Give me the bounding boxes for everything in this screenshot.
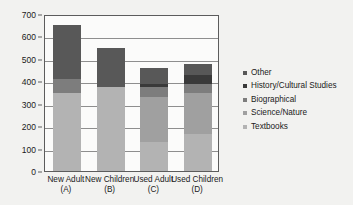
y-axis-tick-label: 300 [2, 100, 36, 109]
y-axis-tick-mark [38, 172, 42, 173]
y-axis-tick-label: 0 [2, 168, 36, 177]
bar-segment [97, 87, 125, 171]
legend-swatch-icon [243, 125, 247, 129]
legend-item[interactable]: Biographical [243, 93, 351, 107]
x-axis-labels: New Adult(A)New Children(B)Used Adult(C)… [44, 175, 219, 203]
y-axis-tick-mark [38, 104, 42, 105]
y-axis-tick-label: 500 [2, 56, 36, 65]
y-axis-tick-mark [38, 37, 42, 38]
legend-label: History/Cultural Studies [251, 82, 337, 90]
plot-area [44, 15, 219, 172]
x-axis-label-4: Used Children(D) [166, 175, 228, 196]
bar-segment [184, 64, 212, 74]
y-axis-tick-label: 700 [2, 11, 36, 20]
bar-segment [184, 75, 212, 84]
bar-segment [140, 68, 168, 84]
bar-segment [184, 134, 212, 171]
x-axis-label-line: Used Children [166, 175, 228, 185]
y-axis-tick-mark [38, 15, 42, 16]
y-axis: 0100200300400500600700 [0, 8, 42, 180]
legend-item[interactable]: History/Cultural Studies [243, 80, 351, 94]
legend-label: Science/Nature [251, 109, 307, 117]
legend-swatch-icon [243, 84, 247, 88]
bar-segment [53, 93, 81, 172]
bar-2 [97, 14, 125, 171]
bar-segment [97, 48, 125, 87]
bar-4 [184, 14, 212, 171]
legend-item[interactable]: Science/Nature [243, 107, 351, 121]
legend-label: Other [251, 69, 271, 77]
y-axis-tick-label: 600 [2, 33, 36, 42]
legend-swatch-icon [243, 111, 247, 115]
chart-legend: OtherHistory/Cultural StudiesBiographica… [243, 66, 351, 134]
legend-item[interactable]: Other [243, 66, 351, 80]
y-axis-tick-mark [38, 82, 42, 83]
bar-segment [140, 87, 168, 97]
legend-label: Biographical [251, 96, 296, 104]
y-axis-tick-mark [38, 127, 42, 128]
bar-segment [184, 84, 212, 93]
bar-1 [53, 14, 81, 171]
bar-segment [53, 25, 81, 79]
y-axis-tick-mark [38, 59, 42, 60]
y-axis-tick-label: 200 [2, 123, 36, 132]
stacked-bar-chart: 0100200300400500600700 New Adult(A)New C… [0, 0, 353, 205]
x-axis-label-line: (D) [166, 185, 228, 195]
legend-swatch-icon [243, 98, 247, 102]
bar-segment [184, 93, 212, 134]
y-axis-tick-label: 400 [2, 78, 36, 87]
legend-label: Textbooks [251, 123, 288, 131]
bar-segment [53, 79, 81, 92]
y-axis-tick-mark [38, 149, 42, 150]
legend-swatch-icon [243, 71, 247, 75]
legend-item[interactable]: Textbooks [243, 120, 351, 134]
y-axis-tick-label: 100 [2, 145, 36, 154]
bar-segment [140, 142, 168, 171]
bar-segment [140, 84, 168, 87]
bar-3 [140, 14, 168, 171]
bar-segment [140, 97, 168, 142]
